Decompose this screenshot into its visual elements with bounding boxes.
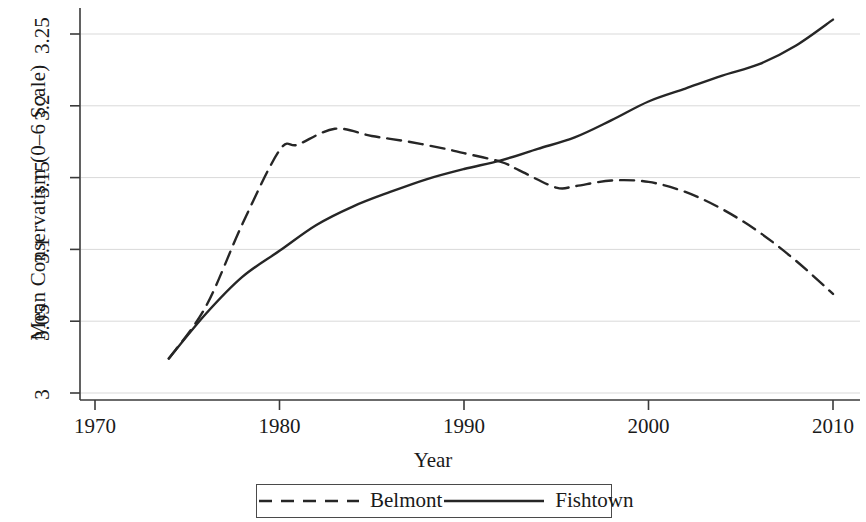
x-tick-label: 1990: [419, 414, 509, 439]
x-tick-label: 1970: [50, 414, 140, 439]
data-series-layer: [169, 20, 833, 359]
y-tick-label: 3.2: [30, 67, 55, 147]
x-axis-ticks: [95, 400, 833, 410]
legend-swatch-dashed: [257, 495, 361, 507]
legend-label-belmont: Belmont: [370, 490, 442, 513]
gridlines: [81, 34, 860, 393]
legend-label-fishtown: Fishtown: [555, 490, 633, 513]
y-axis-ticks: [70, 34, 80, 393]
legend-item-belmont: Belmont: [257, 490, 442, 513]
y-tick-label: 3.15: [30, 139, 55, 219]
y-tick-label: 3.05: [30, 283, 55, 363]
y-tick-label: 3.25: [30, 0, 55, 76]
x-tick-label: 2010: [788, 414, 866, 439]
x-tick-label: 2000: [604, 414, 694, 439]
conservatism-trend-chart: Mean Conservatism (0–6 Scale) Year 33.05…: [0, 0, 866, 522]
legend-item-fishtown: Fishtown: [442, 490, 633, 513]
series-line-fishtown: [169, 20, 833, 359]
chart-legend: Belmont Fishtown: [256, 484, 612, 518]
y-tick-label: 3.1: [30, 211, 55, 291]
axis-spines: [80, 8, 860, 400]
series-line-belmont: [169, 129, 833, 359]
legend-swatch-solid: [442, 495, 546, 507]
x-tick-label: 1980: [235, 414, 325, 439]
plot-area: [0, 0, 866, 470]
